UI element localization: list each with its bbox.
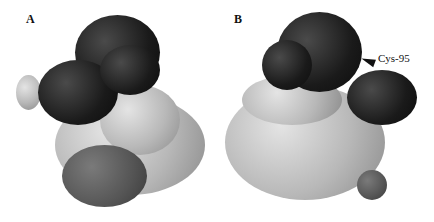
pointer-arrow-icon	[360, 55, 376, 67]
panel-a: A	[0, 0, 217, 222]
residue-annotation: Cys-95	[378, 52, 410, 64]
panel-label-a: A	[26, 12, 35, 27]
panel-label-b: B	[234, 12, 242, 27]
panel-b: B Cys-95	[217, 0, 434, 222]
